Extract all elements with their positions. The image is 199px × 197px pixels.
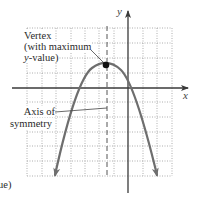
y-axis-label: y <box>117 5 122 17</box>
parabola-curve <box>55 63 157 175</box>
clipped-caption-text: ue) <box>0 179 11 190</box>
vertex-label-line2: (with maximum <box>24 41 91 52</box>
value-suffix: -value) <box>29 52 59 63</box>
vertex-label-line1: Vertex <box>24 30 51 41</box>
vertex-point <box>103 62 110 69</box>
parabola-diagram: y x Vertex (with maximum y-value) Axis o… <box>0 0 199 197</box>
vertex-label-line3: y-value) <box>24 52 58 63</box>
symmetry-label-line2: symmetry <box>10 118 52 129</box>
vertex-leader-line <box>91 50 105 64</box>
x-axis-label: x <box>183 89 188 101</box>
vertex-annotation: Vertex (with maximum y-value) <box>24 30 91 63</box>
axis-of-symmetry-annotation: Axis of <box>21 106 55 117</box>
symmetry-label-line1: Axis of <box>24 106 55 117</box>
